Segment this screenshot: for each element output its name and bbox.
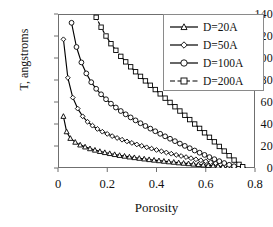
legend-item[interactable]: D=100A xyxy=(168,54,263,72)
legend-item[interactable]: D=200A xyxy=(168,72,263,90)
diamond-marker-icon xyxy=(168,38,200,52)
y-tick-label: 0 xyxy=(221,162,273,174)
x-axis-title: Porosity xyxy=(58,200,255,216)
circle-marker-icon xyxy=(168,56,200,70)
x-tick-label: 0.6 xyxy=(186,177,226,192)
y-tick-label: 40 xyxy=(221,118,273,130)
chart-legend: D=20AD=50AD=100AD=200A xyxy=(163,14,264,91)
y-tick-label: 60 xyxy=(221,96,273,108)
x-tick-label: 0.4 xyxy=(137,177,177,192)
x-tick-label: 0 xyxy=(38,177,78,192)
legend-label: D=50A xyxy=(200,39,238,51)
legend-label: D=200A xyxy=(200,75,243,87)
legend-item[interactable]: D=20A xyxy=(168,18,263,36)
x-tick-label: 0.8 xyxy=(235,177,273,192)
chart-figure: T, angstroms Porosity 020406080100120140… xyxy=(0,0,273,227)
square-marker-icon xyxy=(168,74,200,88)
x-tick-label: 0.2 xyxy=(87,177,127,192)
legend-label: D=20A xyxy=(200,21,238,33)
legend-label: D=100A xyxy=(200,57,243,69)
y-tick-label: 20 xyxy=(221,140,273,152)
triangle-marker-icon xyxy=(168,20,200,34)
legend-item[interactable]: D=50A xyxy=(168,36,263,54)
y-axis-title: T, angstroms xyxy=(17,14,32,106)
